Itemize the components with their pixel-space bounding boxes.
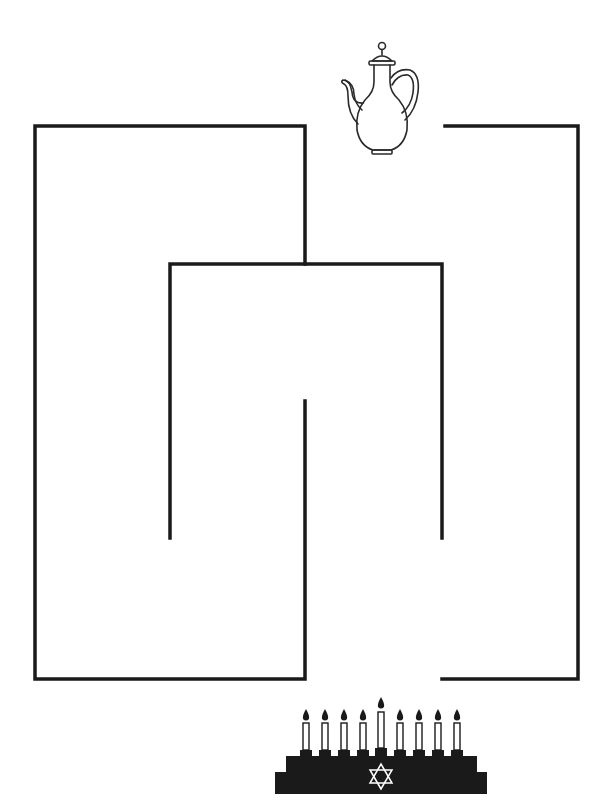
maze-wall-outer-right bbox=[442, 126, 578, 679]
teapot-icon bbox=[342, 43, 419, 155]
menorah-icon bbox=[275, 697, 487, 794]
maze-walls bbox=[35, 126, 578, 679]
maze-puzzle: Maze bbox=[0, 0, 614, 809]
